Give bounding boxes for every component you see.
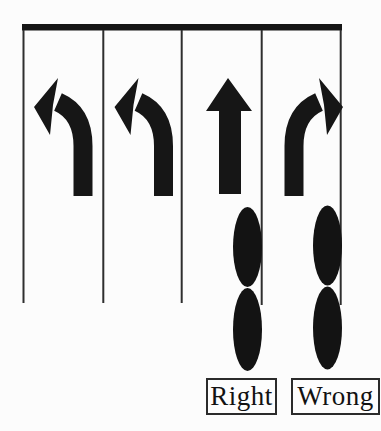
wrong-label-box: Wrong [291,378,380,415]
right-label-box: Right [206,378,277,415]
left-turn-arrow-icon [34,78,83,196]
right-turn-arrow-icon [294,78,343,196]
road-diagram-canvas [0,0,381,431]
two-wheeler-symbol-wrong [313,206,342,370]
lane-position-diagram: Right Wrong [0,0,381,431]
stop-line [22,24,342,31]
two-wheeler-symbol-right [233,207,262,371]
left-turn-arrow-icon [115,78,164,196]
wrong-label-text: Wrong [297,383,373,410]
straight-arrow-icon [206,78,252,194]
right-label-text: Right [210,383,273,410]
